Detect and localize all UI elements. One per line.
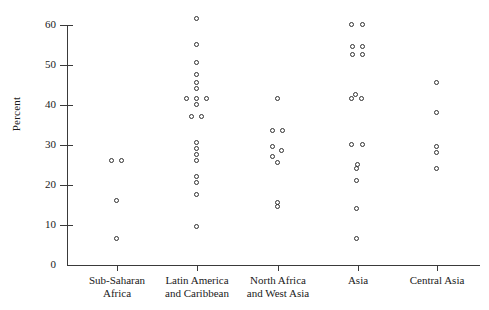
x-tick-3 — [358, 265, 359, 271]
x-tick-label-4: Central Asia — [385, 274, 489, 287]
y-tick-inner-50 — [67, 65, 73, 66]
data-point — [349, 142, 354, 147]
data-point — [349, 96, 354, 101]
data-point — [194, 174, 199, 179]
data-point — [360, 22, 365, 27]
data-point — [194, 72, 199, 77]
data-point — [360, 44, 365, 49]
data-point — [194, 42, 199, 47]
x-tick-1 — [197, 265, 198, 271]
y-tick-label-30: 30 — [30, 138, 56, 150]
data-point — [354, 166, 359, 171]
data-point — [360, 142, 365, 147]
y-tick-20 — [60, 185, 67, 186]
data-point — [434, 144, 439, 149]
data-point — [434, 110, 439, 115]
data-point — [350, 52, 355, 57]
data-point — [270, 154, 275, 159]
data-point — [194, 146, 199, 151]
data-point — [194, 96, 199, 101]
data-point — [199, 114, 204, 119]
y-tick-inner-60 — [67, 25, 73, 26]
data-point — [194, 158, 199, 163]
data-point — [279, 148, 284, 153]
x-tick-label-line: and West Asia — [226, 287, 330, 300]
data-point — [204, 96, 209, 101]
data-point — [349, 22, 354, 27]
data-point — [194, 60, 199, 65]
x-tick-4 — [437, 265, 438, 271]
data-point — [353, 92, 358, 97]
x-tick-label-line: Central Asia — [385, 274, 489, 287]
data-point — [275, 204, 280, 209]
data-point — [194, 192, 199, 197]
data-point — [360, 52, 365, 57]
data-point — [275, 96, 280, 101]
data-point — [119, 158, 124, 163]
y-tick-label-40: 40 — [30, 98, 56, 110]
y-tick-label-20: 20 — [30, 178, 56, 190]
y-tick-50 — [60, 65, 67, 66]
x-tick-2 — [278, 265, 279, 271]
y-tick-inner-40 — [67, 105, 73, 106]
data-point — [184, 96, 189, 101]
data-point — [434, 80, 439, 85]
y-axis-zero-label: 0 — [30, 258, 56, 270]
y-tick-label-50: 50 — [30, 58, 56, 70]
data-point — [270, 128, 275, 133]
data-point — [434, 150, 439, 155]
y-tick-inner-30 — [67, 145, 73, 146]
data-point — [354, 206, 359, 211]
data-point — [270, 144, 275, 149]
data-point — [114, 236, 119, 241]
data-point — [109, 158, 114, 163]
y-tick-10 — [60, 225, 67, 226]
data-point — [350, 44, 355, 49]
data-point — [194, 16, 199, 21]
data-point — [280, 128, 285, 133]
data-point — [434, 166, 439, 171]
data-point — [194, 180, 199, 185]
data-point — [354, 178, 359, 183]
data-point — [354, 236, 359, 241]
y-tick-inner-10 — [67, 225, 73, 226]
x-tick-0 — [117, 265, 118, 271]
x-axis-line — [67, 265, 480, 266]
y-axis-title: Percent — [10, 69, 22, 159]
data-point — [114, 198, 119, 203]
data-point — [194, 102, 199, 107]
data-point — [194, 86, 199, 91]
data-point — [194, 80, 199, 85]
y-tick-60 — [60, 25, 67, 26]
data-point — [275, 160, 280, 165]
y-tick-30 — [60, 145, 67, 146]
y-tick-label-10: 10 — [30, 218, 56, 230]
data-point — [359, 96, 364, 101]
data-point — [194, 140, 199, 145]
data-point — [189, 114, 194, 119]
y-tick-label-60: 60 — [30, 18, 56, 30]
data-point — [194, 152, 199, 157]
scatter-plot-chart: Percent 102030405060 0 Sub-SaharanAfrica… — [0, 0, 489, 310]
data-point — [194, 224, 199, 229]
y-tick-inner-20 — [67, 185, 73, 186]
y-tick-40 — [60, 105, 67, 106]
